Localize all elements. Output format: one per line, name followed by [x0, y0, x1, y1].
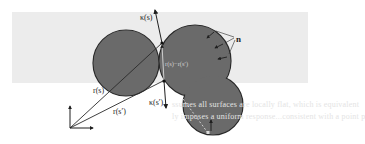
kappa-s-label: κ(s) [140, 13, 153, 22]
r-s-prime-label: r(s′) [113, 107, 126, 116]
bottom-point-marker [207, 131, 210, 134]
kappa-s-prime-arrow [164, 81, 166, 108]
difference-label: r(s)−r(s′) [165, 60, 188, 68]
kappa-s-prime-label: κ(s′) [149, 98, 164, 107]
bleed-through-line-1: ssumes all surfaces are locally flat, wh… [172, 100, 359, 109]
background-panel [12, 12, 308, 83]
contact-point-s [160, 41, 163, 44]
bleed-through-line-2: ly imposes a uniform response...consiste… [172, 112, 365, 121]
r-s-label: r(s) [93, 86, 104, 95]
contact-point-s-prime [162, 79, 165, 82]
normal-label: n [236, 34, 241, 44]
